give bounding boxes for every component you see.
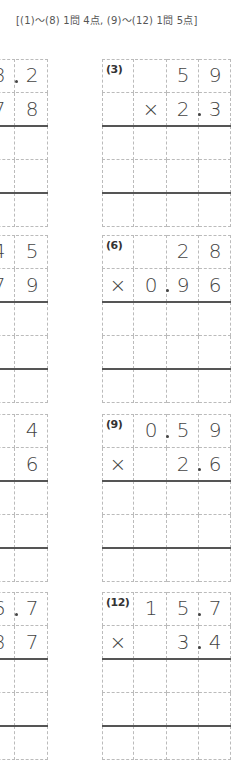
- right-problem-digit: 0: [135, 414, 167, 447]
- left-problem-answer-cell: [16, 302, 48, 336]
- right-problem-digit: 3: [199, 93, 231, 126]
- left-problem-answer-cell: [0, 693, 15, 727]
- right-problem-answer-cell: [135, 659, 167, 693]
- problem-number: (12): [106, 596, 129, 609]
- right-problem-answer-cell: [102, 726, 134, 760]
- right-problem-digit: 9: [199, 59, 231, 92]
- right-problem-answer-cell: [167, 160, 199, 194]
- right-problem-digit: 3: [167, 626, 199, 659]
- right-problem-answer-cell: [135, 302, 167, 336]
- left-problem-digit: 8: [16, 93, 48, 126]
- right-problem-digit: 5: [167, 592, 199, 625]
- right-problem-digit: 5: [167, 59, 199, 92]
- left-problem-answer-cell: [0, 193, 15, 227]
- sum-line: [0, 368, 48, 370]
- left-problem-answer-cell: [0, 414, 15, 448]
- right-problem-answer-cell: [167, 369, 199, 403]
- left-problem-digit: 4: [0, 235, 15, 268]
- right-problem-answer-cell: [199, 160, 231, 194]
- left-problem-answer-cell: [0, 126, 15, 160]
- left-problem-answer-cell: [0, 659, 15, 693]
- right-problem-answer-cell: [167, 659, 199, 693]
- left-problem-digit: 6: [0, 592, 15, 625]
- right-problem-answer-cell: [135, 336, 167, 370]
- right-problem-answer-cell: [167, 515, 199, 549]
- right-problem-digit: 6: [199, 448, 231, 481]
- decimal-point: [166, 435, 169, 438]
- times-sign: ×: [102, 448, 134, 481]
- right-problem-answer-cell: [102, 659, 134, 693]
- left-problem-answer-cell: [16, 160, 48, 194]
- right-problem-answer-cell: [102, 548, 134, 582]
- left-problem-digit: 7: [0, 269, 15, 302]
- right-problem-answer-cell: [135, 126, 167, 160]
- left-problem-answer-cell: [16, 481, 48, 515]
- right-problem-answer-cell: [135, 448, 167, 482]
- right-problem-answer-cell: [102, 93, 134, 127]
- right-problem-answer-cell: [102, 481, 134, 515]
- right-problem-answer-cell: [199, 481, 231, 515]
- right-problem-digit: 2: [167, 235, 199, 268]
- left-problem-answer-cell: [0, 481, 15, 515]
- left-problem-digit: 6: [16, 448, 48, 481]
- right-problem-answer-cell: [167, 336, 199, 370]
- decimal-point: [198, 613, 201, 616]
- problem-number: (6): [106, 239, 122, 252]
- left-problem-digit: 7: [0, 93, 15, 126]
- right-problem-digit: 1: [135, 592, 167, 625]
- right-problem-answer-cell: [102, 336, 134, 370]
- left-problem-answer-cell: [0, 369, 15, 403]
- right-problem-answer-cell: [199, 548, 231, 582]
- right-problem-answer-cell: [199, 659, 231, 693]
- right-problem-answer-cell: [135, 160, 167, 194]
- left-problem-answer-cell: [16, 336, 48, 370]
- right-problem-digit: 2: [167, 448, 199, 481]
- left-problem-answer-cell: [16, 659, 48, 693]
- right-problem-answer-cell: [135, 193, 167, 227]
- sum-line: [0, 192, 48, 194]
- right-problem-digit: 7: [199, 592, 231, 625]
- left-problem-answer-cell: [16, 193, 48, 227]
- decimal-point: [15, 80, 18, 83]
- left-problem-digit: 7: [16, 626, 48, 659]
- right-problem-answer-cell: [135, 481, 167, 515]
- right-problem-digit: 4: [199, 626, 231, 659]
- right-problem-answer-cell: [135, 548, 167, 582]
- right-problem-answer-cell: [135, 693, 167, 727]
- right-problem-answer-cell: [102, 693, 134, 727]
- right-problem-answer-cell: [102, 302, 134, 336]
- left-problem-answer-cell: [16, 126, 48, 160]
- left-problem-digit: 8: [0, 626, 15, 659]
- left-problem-digit: 4: [16, 414, 48, 447]
- sum-line: [102, 725, 231, 727]
- right-problem-answer-cell: [102, 369, 134, 403]
- left-problem-answer-cell: [0, 548, 15, 582]
- right-problem-answer-cell: [102, 126, 134, 160]
- sum-line: [0, 725, 48, 727]
- right-problem-answer-cell: [167, 193, 199, 227]
- left-problem-answer-cell: [0, 302, 15, 336]
- right-problem-answer-cell: [199, 515, 231, 549]
- times-sign: ×: [102, 626, 134, 659]
- right-problem-answer-cell: [135, 369, 167, 403]
- right-problem-answer-cell: [199, 726, 231, 760]
- right-problem-answer-cell: [199, 302, 231, 336]
- right-problem-answer-cell: [102, 160, 134, 194]
- right-problem-answer-cell: [167, 481, 199, 515]
- right-problem-digit: 8: [199, 235, 231, 268]
- left-problem-answer-cell: [16, 726, 48, 760]
- scoring-header: [(1)〜(8) 1問 4点, (9)〜(12) 1問 5点]: [16, 12, 242, 27]
- problem-number: (3): [106, 63, 122, 76]
- problem-number: (9): [106, 418, 122, 431]
- sum-line: [102, 547, 231, 549]
- right-problem-answer-cell: [199, 336, 231, 370]
- left-problem-answer-cell: [0, 160, 15, 194]
- right-problem-answer-cell: [135, 726, 167, 760]
- right-problem-answer-cell: [167, 548, 199, 582]
- right-problem-answer-cell: [167, 693, 199, 727]
- right-problem-answer-cell: [167, 302, 199, 336]
- decimal-point: [15, 613, 18, 616]
- right-problem-answer-cell: [135, 626, 167, 660]
- left-problem-answer-cell: [16, 515, 48, 549]
- right-problem-digit: 5: [167, 414, 199, 447]
